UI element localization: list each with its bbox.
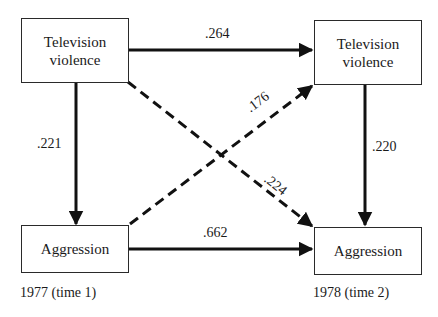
edge-label-agg1977-agg1978: .662 bbox=[203, 226, 228, 240]
node-label: Aggression bbox=[41, 240, 109, 258]
caption-time-1: 1977 (time 1) bbox=[20, 285, 96, 301]
edge-label-tv1977-agg1977: .221 bbox=[37, 137, 62, 151]
node-aggression-1977: Aggression bbox=[21, 225, 129, 273]
edge-label-tv1978-agg1978: .220 bbox=[372, 140, 397, 154]
node-label: violence bbox=[44, 51, 106, 69]
node-aggression-1978: Aggression bbox=[314, 227, 422, 275]
node-label: violence bbox=[337, 53, 399, 71]
node-television-violence-1977: Television violence bbox=[21, 18, 129, 83]
caption-time-2: 1978 (time 2) bbox=[313, 285, 389, 301]
node-label: Television bbox=[44, 33, 106, 51]
edge-label-tv1977-tv1978: .264 bbox=[205, 27, 230, 41]
node-television-violence-1978: Television violence bbox=[314, 20, 422, 85]
node-label: Television bbox=[337, 35, 399, 53]
node-label: Aggression bbox=[334, 242, 402, 260]
